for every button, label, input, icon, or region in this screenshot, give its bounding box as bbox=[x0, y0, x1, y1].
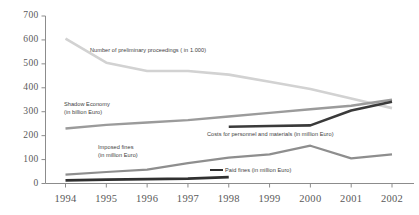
series-label-line1: Costs for personnel and materials (in mi… bbox=[207, 131, 334, 137]
series-label-imposed-fines: Imposed fines (in million Euro) bbox=[98, 143, 138, 160]
line-chart: 7006005004003002001000 19941995199619971… bbox=[0, 0, 419, 215]
x-axis-tick-label: 1996 bbox=[124, 193, 170, 204]
y-axis-tick-label: 100 bbox=[5, 154, 39, 164]
x-axis-tick-label: 2002 bbox=[369, 193, 415, 204]
x-axis-tick-label: 1994 bbox=[43, 193, 89, 204]
y-axis-ticks bbox=[42, 16, 46, 184]
series-label-line2: (in billion Euro) bbox=[64, 108, 110, 116]
x-axis-tick-label: 2001 bbox=[328, 193, 374, 204]
y-axis-tick-label: 0 bbox=[5, 178, 39, 188]
chart-plot-area bbox=[0, 0, 419, 215]
x-axis-tick-label: 1997 bbox=[165, 193, 211, 204]
x-axis-ticks bbox=[66, 184, 393, 188]
x-axis-tick-label: 1999 bbox=[247, 193, 293, 204]
series-line-5 bbox=[66, 177, 229, 180]
paid-fines-color-swatch bbox=[210, 169, 223, 171]
series-label-line1: Shadow Economy bbox=[64, 101, 110, 107]
y-axis-tick-label: 400 bbox=[5, 82, 39, 92]
y-axis-tick-label: 600 bbox=[5, 34, 39, 44]
series-label-line1: Imposed fines bbox=[98, 144, 133, 150]
series-label-preliminary-proceedings: Number of preliminary proceedings ( in 1… bbox=[90, 46, 206, 54]
x-axis-tick-label: 1998 bbox=[206, 193, 252, 204]
x-axis-tick-label: 1995 bbox=[83, 193, 129, 204]
y-axis-tick-label: 300 bbox=[5, 106, 39, 116]
series-label-costs: Costs for personnel and materials (in mi… bbox=[207, 130, 334, 138]
series-label-line2: (in million Euro) bbox=[98, 151, 138, 159]
series-label-shadow-economy: Shadow Economy (in billion Euro) bbox=[64, 100, 110, 117]
y-axis-tick-label: 200 bbox=[5, 130, 39, 140]
y-axis-tick-label: 500 bbox=[5, 58, 39, 68]
series-label-paid-fines: Paid fines (in million Euro) bbox=[210, 166, 291, 174]
series-label-line1: Number of preliminary proceedings ( in 1… bbox=[90, 47, 206, 53]
y-axis-tick-label: 700 bbox=[5, 10, 39, 20]
x-axis-tick-label: 2000 bbox=[287, 193, 333, 204]
series-label-line1: Paid fines (in million Euro) bbox=[225, 167, 291, 173]
